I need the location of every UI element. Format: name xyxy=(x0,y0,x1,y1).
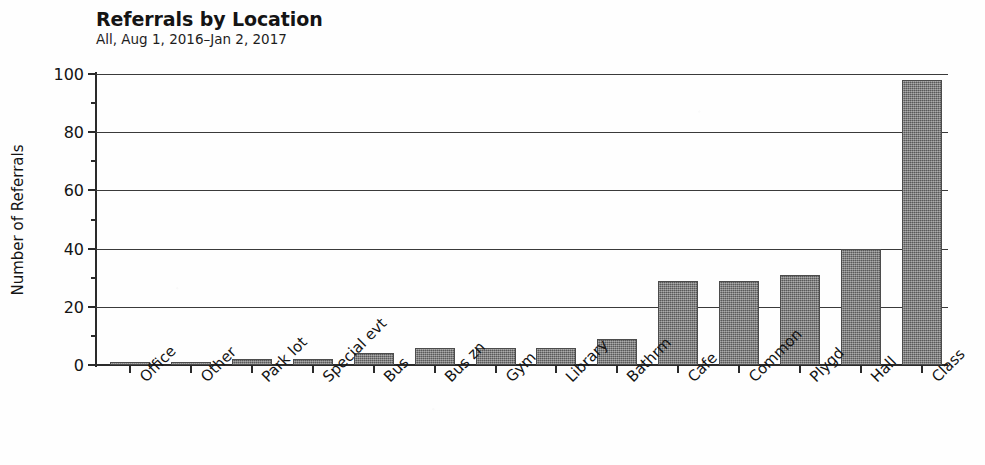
x-label-office: Office xyxy=(136,373,149,386)
x-axis-category-labels: OfficeOtherPark lotSpecial evtBusBus znG… xyxy=(96,373,948,463)
gridline-60 xyxy=(96,190,948,191)
y-axis-title: Number of Referrals xyxy=(8,74,28,365)
plot-area: 020406080100 xyxy=(96,74,948,365)
x-label-bathrm: Bathrm xyxy=(623,373,636,386)
y-tick-label-60: 60 xyxy=(64,181,84,200)
x-tick-plygd xyxy=(799,365,801,373)
y-axis-title-label: Number of Referrals xyxy=(9,144,27,295)
x-tick-special-evt xyxy=(312,365,314,373)
y-tick-major-100 xyxy=(88,73,96,75)
y-tick-minor-50 xyxy=(91,219,96,221)
x-label-special-evt: Special evt xyxy=(319,373,332,386)
chart-page: Referrals by Location All, Aug 1, 2016–J… xyxy=(0,0,985,465)
x-label-common: Common xyxy=(745,373,758,386)
chart-title: Referrals by Location xyxy=(96,8,696,30)
x-tick-common xyxy=(738,365,740,373)
y-tick-label-100: 100 xyxy=(53,65,84,84)
y-tick-label-20: 20 xyxy=(64,297,84,316)
x-label-class: Class xyxy=(928,373,941,386)
y-tick-major-80 xyxy=(88,131,96,133)
bar-hall[interactable] xyxy=(841,249,881,365)
x-tick-cafe xyxy=(677,365,679,373)
x-label-library: Library xyxy=(562,373,575,386)
bar-library[interactable] xyxy=(536,348,576,365)
y-tick-minor-30 xyxy=(91,277,96,279)
y-tick-minor-10 xyxy=(91,335,96,337)
y-tick-label-0: 0 xyxy=(74,356,84,375)
y-tick-major-20 xyxy=(88,306,96,308)
gridline-100 xyxy=(96,74,948,75)
x-label-cafe: Cafe xyxy=(684,373,697,386)
title-block: Referrals by Location All, Aug 1, 2016–J… xyxy=(96,8,696,48)
x-tick-bathrm xyxy=(616,365,618,373)
x-label-park-lot: Park lot xyxy=(258,373,271,386)
x-tick-other xyxy=(190,365,192,373)
y-tick-label-80: 80 xyxy=(64,123,84,142)
x-tick-hall xyxy=(860,365,862,373)
gridline-20 xyxy=(96,307,948,308)
x-tick-office xyxy=(129,365,131,373)
bar-class[interactable] xyxy=(902,80,942,365)
y-tick-label-40: 40 xyxy=(64,239,84,258)
y-tick-major-60 xyxy=(88,189,96,191)
x-label-bus-zn: Bus zn xyxy=(441,373,454,386)
y-tick-major-0 xyxy=(88,364,96,366)
x-tick-bus-zn xyxy=(434,365,436,373)
x-tick-library xyxy=(555,365,557,373)
x-label-bus: Bus xyxy=(380,373,393,386)
x-label-hall: Hall xyxy=(867,373,880,386)
chart-subtitle: All, Aug 1, 2016–Jan 2, 2017 xyxy=(96,31,696,48)
y-tick-major-40 xyxy=(88,248,96,250)
x-label-gym: Gym xyxy=(502,373,515,386)
x-tick-class xyxy=(921,365,923,373)
x-tick-bus xyxy=(373,365,375,373)
gridline-80 xyxy=(96,132,948,133)
y-tick-minor-90 xyxy=(91,102,96,104)
gridline-40 xyxy=(96,249,948,250)
y-tick-minor-70 xyxy=(91,160,96,162)
bar-common[interactable] xyxy=(719,281,759,365)
bar-bus-zn[interactable] xyxy=(415,348,455,365)
x-tick-park-lot xyxy=(251,365,253,373)
x-tick-gym xyxy=(495,365,497,373)
x-label-plygd: Plygd xyxy=(806,373,819,386)
x-label-other: Other xyxy=(197,373,210,386)
